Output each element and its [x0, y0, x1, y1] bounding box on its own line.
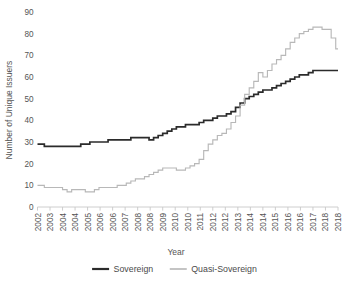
- x-tick-label: 2011: [196, 213, 205, 231]
- y-tick-label-50: 50: [24, 95, 34, 104]
- x-tick-label: 2010: [184, 213, 193, 232]
- y-axis-title: Number of Unique Issuers: [4, 61, 14, 160]
- y-tick-label-20: 20: [24, 160, 34, 169]
- y-tick-label-40: 40: [24, 116, 34, 125]
- y-tick-label-70: 70: [24, 51, 34, 60]
- y-tick-label-60: 60: [24, 73, 34, 82]
- series-line-sovereign: [38, 71, 339, 147]
- x-tick-label: 2012: [221, 213, 230, 232]
- x-tick-label: 2016: [284, 213, 293, 232]
- x-tick-label: 2009: [159, 213, 168, 232]
- x-tick-label: 2002: [34, 213, 43, 232]
- x-tick-label: 2004: [71, 213, 80, 232]
- x-tick-label: 2018: [334, 213, 343, 232]
- x-tick-label: 2006: [109, 213, 118, 232]
- x-tick-label: 2015: [271, 213, 280, 232]
- x-tick-label: 2007: [121, 213, 130, 232]
- x-tick-label: 2013: [234, 213, 243, 232]
- x-tick-label: 2017: [309, 213, 318, 232]
- chart-legend: SovereignQuasi-Sovereign: [92, 264, 257, 274]
- x-tick-label: 2008: [134, 213, 143, 232]
- x-tick-label: 2003: [46, 213, 55, 232]
- x-tick-label: 2016: [296, 213, 305, 232]
- x-axis: [38, 207, 339, 211]
- x-tick-label: 2014: [259, 213, 268, 232]
- legend-label: Quasi-Sovereign: [191, 264, 257, 274]
- y-axis-title-text: Number of Unique Issuers: [4, 61, 14, 160]
- y-tick-label-10: 10: [24, 181, 34, 190]
- line-chart: 0102030405060708090 Number of Unique Iss…: [0, 0, 346, 281]
- x-tick-label: 2006: [96, 213, 105, 232]
- y-tick-label-30: 30: [24, 138, 34, 147]
- y-axis-tick-labels: 0102030405060708090: [24, 8, 34, 212]
- x-tick-label: 2005: [84, 213, 93, 232]
- x-tick-label: 2004: [59, 213, 68, 232]
- x-tick-label: 2010: [171, 213, 180, 232]
- series-line-quasi-sovereign: [38, 27, 339, 192]
- x-tick-label: 2018: [321, 213, 330, 232]
- x-tick-label: 2012: [209, 213, 218, 232]
- y-tick-label-0: 0: [29, 203, 34, 212]
- series-lines: [38, 27, 339, 192]
- y-tick-label-90: 90: [24, 8, 34, 17]
- chart-container: 0102030405060708090 Number of Unique Iss…: [0, 0, 346, 281]
- x-axis-title: Year: [167, 247, 184, 257]
- x-tick-label: 2008: [146, 213, 155, 232]
- x-axis-title-text: Year: [167, 247, 184, 257]
- x-tick-label: 2014: [246, 213, 255, 232]
- legend-label: Sovereign: [114, 264, 154, 274]
- x-axis-tick-labels: 2002200320042004200520062006200720082008…: [34, 213, 344, 232]
- y-tick-label-80: 80: [24, 30, 34, 39]
